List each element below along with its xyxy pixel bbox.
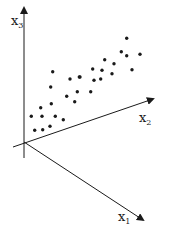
axis-label-x3: x3 <box>11 13 23 30</box>
data-point <box>49 85 52 88</box>
data-point <box>125 37 128 40</box>
points-group <box>30 37 142 132</box>
data-point <box>33 129 36 132</box>
data-point <box>110 72 113 75</box>
data-point <box>103 58 106 61</box>
data-point <box>76 90 79 93</box>
data-point <box>51 70 54 73</box>
data-point <box>138 53 141 56</box>
data-point <box>73 100 76 103</box>
scatter-diagram: x3x2x1 <box>0 0 169 236</box>
data-point <box>50 102 53 105</box>
data-point <box>62 118 65 121</box>
axis-subscript-x2: 2 <box>146 118 151 127</box>
data-point <box>125 54 128 57</box>
data-point <box>99 77 102 80</box>
axis-label-x2: x2 <box>139 110 151 127</box>
data-point <box>30 115 33 118</box>
data-point <box>39 106 42 109</box>
data-point <box>92 79 95 82</box>
axes-group <box>13 8 153 220</box>
data-point <box>54 115 57 118</box>
data-point <box>130 68 133 71</box>
axis-label-x1: x1 <box>118 209 130 226</box>
axis-x2 <box>13 99 153 147</box>
data-point <box>112 62 115 65</box>
data-point <box>89 90 92 93</box>
data-point <box>91 67 94 70</box>
data-point <box>40 115 43 118</box>
data-point <box>41 128 44 131</box>
data-point <box>120 50 123 53</box>
data-point <box>100 69 103 72</box>
axis-subscript-x3: 3 <box>18 21 23 30</box>
data-point <box>48 125 51 128</box>
labels-group: x3x2x1 <box>11 13 151 226</box>
data-point <box>65 95 68 98</box>
axis-subscript-x1: 1 <box>125 217 130 226</box>
data-point <box>78 75 81 78</box>
data-point <box>68 77 71 80</box>
